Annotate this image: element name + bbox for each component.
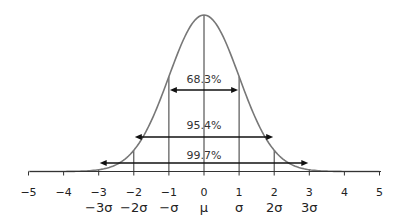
tick-label: 4	[341, 186, 348, 199]
x-axis-ticks	[29, 172, 380, 176]
arrowhead-left-icon	[100, 160, 107, 166]
arrowhead-right-icon	[231, 87, 238, 93]
arrowhead-right-icon	[266, 134, 273, 140]
tick-label: −4	[55, 186, 71, 199]
normal-distribution-chart: −5−4−3−2−1012345 −3σ−2σ−σμσ2σ3σ 68.3%95.…	[0, 0, 405, 223]
sigma-label: −σ	[159, 200, 178, 215]
tick-label: 5	[376, 186, 383, 199]
sigma-label: −2σ	[120, 200, 147, 215]
sigma-labels: −3σ−2σ−σμσ2σ3σ	[85, 200, 318, 215]
tick-label: −5	[20, 186, 36, 199]
tick-label: −1	[161, 186, 177, 199]
interval-percent-label: 95.4%	[187, 119, 222, 132]
arrowhead-left-icon	[135, 134, 142, 140]
tick-label: 2	[271, 186, 278, 199]
sigma-label: −3σ	[85, 200, 112, 215]
sigma-label: σ	[235, 200, 243, 215]
x-axis-tick-labels: −5−4−3−2−1012345	[20, 186, 383, 199]
interval-percent-label: 68.3%	[187, 73, 222, 86]
tick-label: 3	[306, 186, 313, 199]
sigma-label: μ	[200, 200, 208, 215]
arrowhead-right-icon	[301, 160, 308, 166]
arrowhead-left-icon	[170, 87, 177, 93]
tick-label: 0	[201, 186, 208, 199]
tick-label: −3	[91, 186, 107, 199]
sigma-label: 3σ	[301, 200, 318, 215]
tick-label: 1	[236, 186, 243, 199]
tick-label: −2	[126, 186, 142, 199]
interval-percent-label: 99.7%	[187, 149, 222, 162]
sigma-label: 2σ	[266, 200, 283, 215]
